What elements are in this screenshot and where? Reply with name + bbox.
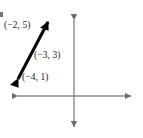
coordinate-plane-figure: (−2, 5) (−3, 3) (−4, 1) <box>0 0 143 138</box>
point-label-a: (−2, 5) <box>4 20 31 31</box>
point-label-b: (−3, 3) <box>34 50 61 61</box>
point-label-c: (−4, 1) <box>22 72 49 83</box>
